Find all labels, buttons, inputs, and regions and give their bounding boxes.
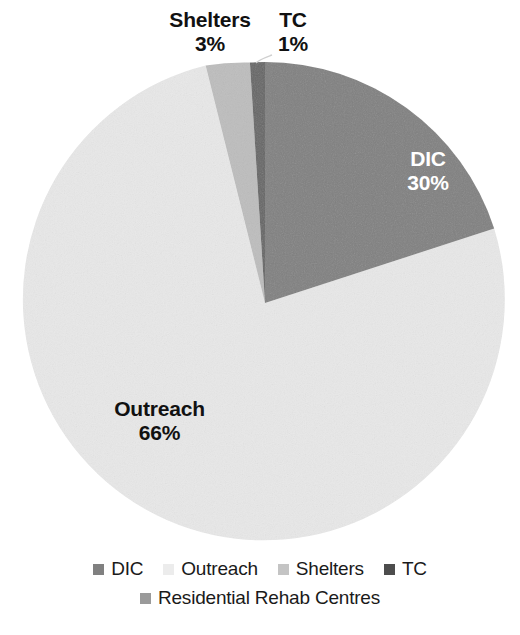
legend-label-tc: TC xyxy=(402,558,427,580)
legend-item-dic: DIC xyxy=(93,558,143,580)
legend-label-outreach: Outreach xyxy=(181,558,258,580)
chart-legend: DIC Outreach Shelters TC Residential Reh… xyxy=(0,558,520,616)
legend-item-outreach: Outreach xyxy=(163,558,258,580)
legend-swatch-icon-outreach xyxy=(163,564,174,575)
slice-callout-shelters: Shelters 3% xyxy=(150,8,270,55)
callout-tc-name: TC xyxy=(258,8,328,32)
legend-label-shelters: Shelters xyxy=(296,558,364,580)
tc-leader-line xyxy=(256,55,272,63)
pie-chart-canvas xyxy=(0,0,520,635)
slice-label-outreach-name: Outreach xyxy=(72,397,247,421)
slice-label-dic-value: 30% xyxy=(368,171,488,195)
slice-label-dic: DIC 30% xyxy=(368,147,488,195)
legend-item-residential-rehab-centres: Residential Rehab Centres xyxy=(140,587,380,609)
legend-row-2: Residential Rehab Centres xyxy=(0,587,520,609)
slice-callout-tc: TC 1% xyxy=(258,8,328,55)
legend-swatch-icon-dic xyxy=(93,564,104,575)
legend-item-tc: TC xyxy=(384,558,427,580)
legend-swatch-icon-residential-rehab-centres xyxy=(140,593,151,604)
pie-chart: Shelters 3% TC 1% DIC 30% Outreach 66% D… xyxy=(0,0,520,635)
callout-shelters-name: Shelters xyxy=(150,8,270,32)
legend-row-1: DIC Outreach Shelters TC xyxy=(0,558,520,580)
callout-shelters-value: 3% xyxy=(150,32,270,56)
callout-tc-value: 1% xyxy=(258,32,328,56)
slice-label-dic-name: DIC xyxy=(368,147,488,171)
legend-item-shelters: Shelters xyxy=(278,558,364,580)
legend-swatch-icon-shelters xyxy=(278,564,289,575)
legend-label-dic: DIC xyxy=(111,558,143,580)
slice-label-outreach: Outreach 66% xyxy=(72,397,247,445)
legend-swatch-icon-tc xyxy=(384,564,395,575)
slice-label-outreach-value: 66% xyxy=(72,421,247,445)
legend-label-residential-rehab-centres: Residential Rehab Centres xyxy=(158,587,380,609)
